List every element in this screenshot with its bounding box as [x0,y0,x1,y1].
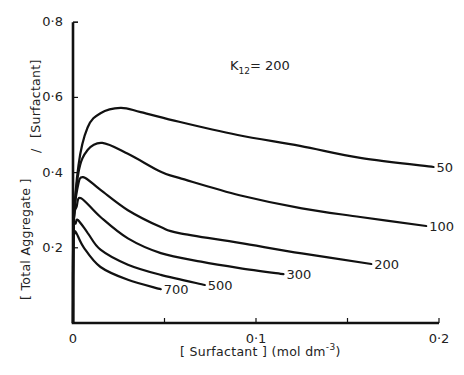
curve-label-50: 50 [437,160,454,175]
y-tick-label: 0·8 [42,14,63,29]
y-axis-title-slash: / [28,148,43,153]
curve-50 [73,108,434,323]
y-axis-title-denominator: [Surfactant] [28,59,43,138]
curve-label-500: 500 [208,278,233,293]
y-tick-label: 0·2 [42,240,63,255]
curve-100 [73,143,426,323]
curve-700 [73,231,161,323]
curve-label-200: 200 [374,257,399,272]
chart: 0·20·40·60·800·10·2 50100200300500700 K1… [0,0,464,375]
curve-label-700: 700 [164,282,189,297]
x-tick-label: 0 [69,331,77,346]
y-axis-title-numerator: [ Total Aggregate ] [18,178,33,300]
curve-label-300: 300 [286,267,311,282]
curve-labels: 50100200300500700 [164,160,454,297]
y-axis-title: [ Total Aggregate ] / [Surfactant] [18,59,43,300]
curve-200 [73,177,371,323]
axes: 0·20·40·60·800·10·2 [42,14,449,346]
curves [73,108,434,323]
curve-300 [73,198,284,323]
y-tick-label: 0·4 [42,165,63,180]
k12-annotation: K12= 200 [230,58,290,76]
x-axis-title: [ Surfactant ] (mol dm-3) [180,342,341,359]
x-tick-label: 0·2 [429,331,450,346]
curve-label-100: 100 [429,219,454,234]
y-tick-label: 0·6 [42,89,63,104]
